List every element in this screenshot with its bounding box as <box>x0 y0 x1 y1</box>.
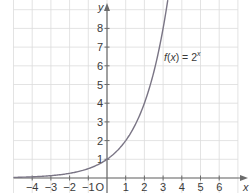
x-tick-label: 4 <box>179 181 185 193</box>
x-tick-label: 6 <box>216 181 222 193</box>
x-tick-label: −4 <box>26 181 39 193</box>
y-tick-label: 2 <box>97 135 103 147</box>
x-axis-label: x <box>242 181 249 193</box>
tick-labels: −4−3−2−112345612345678 <box>26 22 222 193</box>
y-tick-label: 5 <box>97 79 103 91</box>
x-tick-label: −2 <box>63 181 76 193</box>
y-tick-label: 8 <box>97 22 103 34</box>
y-axis-label: y <box>97 1 105 13</box>
x-tick-label: 3 <box>160 181 166 193</box>
exponential-chart: −4−3−2−112345612345678 x y O f(x) = 2x <box>0 0 251 193</box>
function-label: f(x) = 2x <box>164 50 201 63</box>
x-tick-label: −1 <box>82 181 95 193</box>
y-tick-label: 4 <box>97 97 103 109</box>
y-tick-label: 7 <box>97 41 103 53</box>
x-tick-label: 5 <box>197 181 203 193</box>
x-tick-label: −3 <box>45 181 58 193</box>
origin-label: O <box>95 181 104 193</box>
x-tick-label: 2 <box>141 181 147 193</box>
x-tick-label: 1 <box>123 181 129 193</box>
y-tick-label: 3 <box>97 116 103 128</box>
y-tick-label: 6 <box>97 60 103 72</box>
y-axis-arrow-icon <box>104 3 110 11</box>
grid <box>14 0 238 193</box>
